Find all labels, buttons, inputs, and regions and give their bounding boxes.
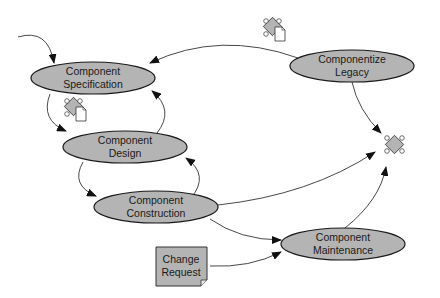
node-component-specification[interactable]: Component Specification xyxy=(31,62,155,94)
edge-maintenance-to-component xyxy=(345,167,386,228)
node-label: Request xyxy=(161,266,200,278)
edge-construction-to-component xyxy=(218,152,375,205)
node-componentize-legacy[interactable]: Componentize Legacy xyxy=(290,50,414,82)
component-icon xyxy=(385,135,405,153)
node-label: Component xyxy=(98,134,152,146)
edge-legacy-to-spec xyxy=(150,45,298,63)
node-component-design[interactable]: Component Design xyxy=(63,131,187,163)
node-label: Change xyxy=(163,253,200,265)
node-label: Legacy xyxy=(335,66,370,78)
node-label: Component xyxy=(316,231,370,243)
edge-design-to-spec xyxy=(152,91,165,133)
node-label: Component xyxy=(66,65,120,77)
node-change-request[interactable]: Change Request xyxy=(156,247,207,286)
node-label: Componentize xyxy=(318,53,386,65)
edge-change-to-maintenance xyxy=(210,252,281,266)
node-label: Design xyxy=(109,147,142,159)
node-label: Maintenance xyxy=(313,244,373,256)
edge-construction-to-design xyxy=(186,158,199,198)
edge-construction-to-maintenance xyxy=(210,219,281,240)
edge-spec-to-design xyxy=(47,94,66,131)
node-label: Component xyxy=(129,194,183,206)
edge-design-to-construction xyxy=(79,162,96,196)
node-label: Construction xyxy=(127,207,186,219)
node-component-construction[interactable]: Component Construction xyxy=(94,191,218,223)
component-document-icon xyxy=(263,17,285,41)
node-component-maintenance[interactable]: Component Maintenance xyxy=(281,228,405,260)
edge-entry-to-spec xyxy=(18,35,54,63)
node-label: Specification xyxy=(63,78,123,90)
process-diagram: Component Specification Component Design… xyxy=(0,0,440,298)
component-document-icon xyxy=(64,97,86,121)
edge-legacy-to-component xyxy=(352,82,381,133)
